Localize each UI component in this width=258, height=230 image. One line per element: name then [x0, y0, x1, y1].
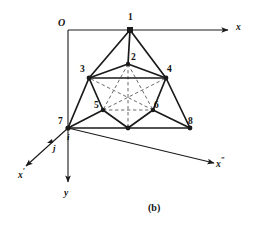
edge-5-7 — [68, 110, 103, 128]
figure-caption: (b) — [148, 203, 160, 213]
node-3-marker — [87, 76, 92, 81]
x-prime-axis-label: x′ — [18, 168, 25, 181]
node-5-marker — [101, 108, 105, 112]
node-label-2: 2 — [131, 53, 136, 63]
x-double-prime-mark: ″ — [221, 156, 225, 165]
edge-3-7 — [68, 78, 89, 128]
node-label-8: 8 — [188, 117, 193, 127]
origin-label: O — [58, 18, 65, 28]
node-label-4: 4 — [167, 65, 172, 75]
node-label-3: 3 — [80, 65, 85, 75]
figure-container: O x y x′ x″ i j 1 2 3 4 5 6 7 8 (b) — [0, 0, 258, 230]
node-center-marker — [126, 126, 131, 131]
node-7-marker — [65, 125, 70, 130]
edge-5-c — [103, 110, 128, 128]
node-4-marker — [164, 76, 169, 81]
edge-2-6-hidden — [128, 64, 153, 110]
j-vector-label: j — [53, 144, 56, 153]
node-label-1: 1 — [128, 13, 133, 23]
visible-edges-group — [68, 30, 190, 128]
node-1-marker — [127, 27, 133, 33]
node-2-marker — [126, 62, 130, 66]
truss-diagram-svg — [0, 0, 258, 230]
edge-6-c — [128, 110, 153, 128]
i-vector-label: i — [67, 133, 70, 142]
node-label-7: 7 — [58, 117, 63, 127]
y-axis-label: y — [64, 189, 68, 199]
x-prime-axis-line — [26, 128, 68, 166]
x-double-prime-axis-label: x″ — [216, 157, 225, 170]
edge-1-2 — [128, 30, 130, 64]
x-prime-mark: ′ — [23, 167, 25, 176]
x-axis-label: x — [236, 23, 241, 33]
axes-group — [26, 30, 228, 182]
node-label-5: 5 — [94, 101, 99, 111]
x-double-prime-axis-line — [68, 128, 214, 163]
node-label-6: 6 — [154, 101, 159, 111]
edge-4-8 — [166, 78, 190, 128]
edge-6-8 — [153, 110, 190, 128]
